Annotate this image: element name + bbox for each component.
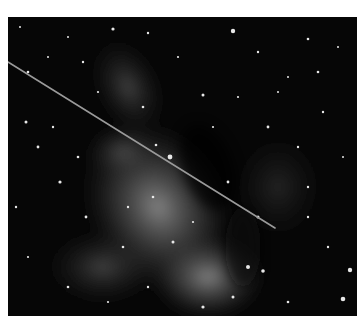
milky-way-photo [8,17,357,316]
star-field [8,17,357,316]
